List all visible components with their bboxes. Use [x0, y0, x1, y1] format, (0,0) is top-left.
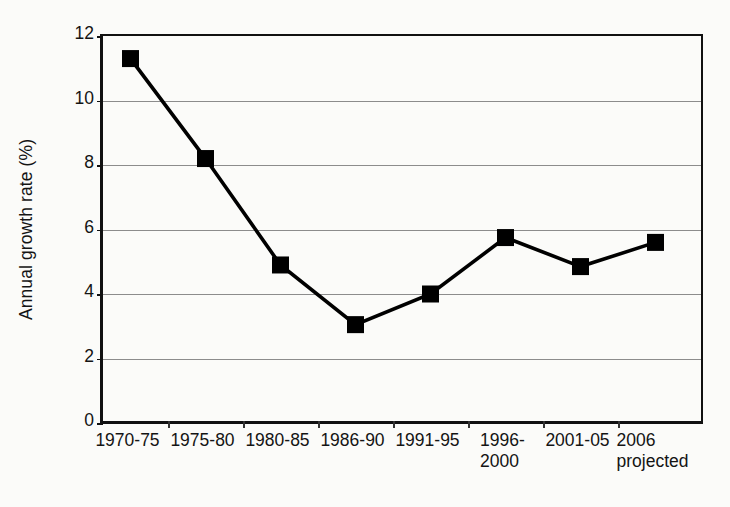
y-axis-tick-label: 10	[75, 90, 94, 108]
y-axis-title-text: Annual growth rate (%)	[17, 138, 38, 319]
y-axis-tick-label: 6	[84, 219, 94, 237]
x-axis-tick-label: 1991-95	[395, 430, 459, 451]
y-axis-tick-label: 8	[84, 154, 94, 172]
series-polyline	[131, 59, 656, 325]
data-point-marker: 1996- 2000: 5.75	[497, 229, 514, 246]
data-series-line: 1970-75: 11.31975-80: 8.21980-85: 4.9198…	[103, 36, 703, 423]
data-point-marker: 1970-75: 11.3	[122, 50, 139, 67]
data-point-marker: 1975-80: 8.2	[197, 150, 214, 167]
x-axis-tick-label: 1980-85	[245, 430, 309, 451]
x-axis-tick-label: 2001-05	[545, 430, 609, 451]
y-axis-tick-label: 2	[84, 348, 94, 366]
x-axis-tick-label: 1986-90	[320, 430, 384, 451]
x-axis-tick-label: 2006 projected	[617, 430, 689, 472]
x-axis-tick-labels: 1970-751975-801980-851986-901991-951996-…	[0, 430, 730, 500]
y-axis-title: Annual growth rate (%)	[10, 34, 44, 424]
plot-area: 1970-75: 11.31975-80: 8.21980-85: 4.9198…	[100, 34, 703, 424]
data-point-marker: 1986-90: 3.05	[347, 316, 364, 333]
data-point-marker: 1980-85: 4.9	[272, 256, 289, 273]
x-axis-tick-label: 1970-75	[95, 430, 159, 451]
data-point-marker: 1991-95: 4	[422, 286, 439, 303]
y-axis-tick-label: 4	[84, 283, 94, 301]
x-axis-tick-label: 1996- 2000	[480, 430, 525, 472]
data-point-marker: 2001-05: 4.85	[572, 258, 589, 275]
chart-figure: Annual growth rate (%) 024681012 1970-75…	[0, 0, 730, 507]
y-axis-tick-mark	[97, 423, 103, 425]
x-axis-tick-label: 1975-80	[170, 430, 234, 451]
data-point-marker: 2006 projected: 5.6	[647, 234, 664, 251]
y-axis-tick-label: 12	[75, 25, 94, 43]
y-axis-tick-label: 0	[84, 412, 94, 430]
